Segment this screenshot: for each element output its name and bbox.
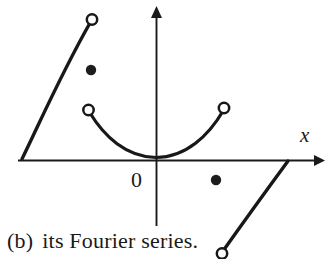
x-axis-label: x	[299, 123, 310, 147]
x-axis-arrowhead	[314, 155, 325, 166]
caption-text: its Fourier series.	[42, 228, 198, 253]
filled-dot-upper-left	[86, 65, 96, 75]
open-circle-bottom-right	[217, 248, 227, 258]
figure-container: x 0 (b)its Fourier series.	[0, 0, 328, 259]
open-circle-top-left	[87, 14, 97, 24]
right-rising-branch	[223, 161, 288, 251]
caption-tag: (b)	[7, 228, 33, 253]
origin-label: 0	[131, 167, 142, 192]
open-circle-parabola-right	[219, 103, 229, 113]
figure-caption: (b)its Fourier series.	[7, 228, 198, 254]
y-axis	[151, 6, 162, 226]
filled-dot-lower-right	[211, 175, 221, 185]
left-rising-branch	[22, 23, 90, 159]
open-circle-parabola-left	[83, 105, 93, 115]
y-axis-arrowhead	[151, 6, 162, 18]
fourier-series-plot: x 0	[0, 0, 328, 259]
